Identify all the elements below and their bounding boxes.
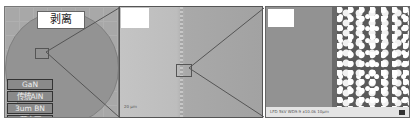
instrument-logo-icon xyxy=(399,110,405,115)
white-label-box xyxy=(268,9,294,27)
textured-region xyxy=(337,7,409,107)
layer-sapphire: 蓝宝石 xyxy=(7,115,53,118)
peel-edge xyxy=(180,7,183,117)
layer-stack-legend: GaN 传统AlN 3um BN 蓝宝石 xyxy=(7,79,53,118)
wafer-photo-panel: 剥离 GaN 传统AlN 3um BN 蓝宝石 xyxy=(4,6,119,118)
scale-bar-label: 20 μm xyxy=(124,104,137,109)
panel-title-label: 剥离 xyxy=(37,11,85,29)
zoom-region-box xyxy=(35,48,49,59)
layer-aln: 传统AlN xyxy=(7,91,53,102)
zoom-region-box xyxy=(176,64,192,77)
optical-micrograph-panel: 20 μm xyxy=(119,6,263,118)
layer-bn: 3um BN xyxy=(7,103,53,114)
sem-data-bar: LFD 5kV WD9.9 x10.0k 10μm xyxy=(266,107,409,117)
sem-image-panel: LFD 5kV WD9.9 x10.0k 10μm xyxy=(265,6,410,118)
white-label-box xyxy=(121,8,149,28)
layer-gan: GaN xyxy=(7,79,53,90)
